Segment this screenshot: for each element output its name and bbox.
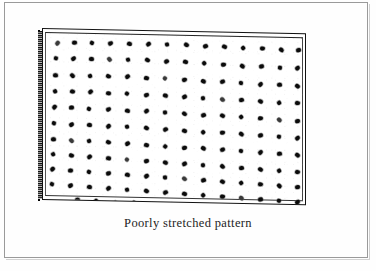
pattern-dot (239, 98, 244, 103)
pattern-dot (238, 180, 243, 185)
pattern-dot (294, 65, 300, 71)
pattern-dot (162, 76, 168, 81)
pattern-dot (295, 119, 301, 124)
pattern-dot (260, 46, 265, 50)
pattern-dot (201, 96, 205, 100)
pattern-dot (182, 77, 188, 82)
pattern-dot (144, 57, 150, 63)
pattern-dot (150, 201, 156, 205)
pattern-dot (239, 149, 244, 154)
pattern-dot (105, 139, 111, 145)
pattern-dot (87, 139, 92, 143)
pattern-dot (277, 134, 282, 139)
pattern-dot (163, 110, 167, 114)
pattern-dot (124, 157, 130, 162)
pattern-dot (162, 144, 168, 149)
pattern-dot (294, 83, 300, 89)
pattern-dot (125, 108, 130, 113)
pattern-dot (278, 65, 283, 70)
pattern-dot (294, 152, 300, 158)
pattern-dot (181, 94, 187, 100)
pattern-dot (188, 203, 194, 205)
pattern-dot (106, 156, 111, 160)
pattern-dot (295, 185, 301, 190)
pattern-dot (276, 117, 282, 123)
pattern-dot (294, 135, 300, 141)
pattern-dot (87, 89, 93, 95)
pattern-dot (239, 63, 245, 69)
pattern-dot (53, 56, 58, 61)
pattern-dot (67, 183, 73, 189)
pattern-dot (127, 41, 132, 46)
pattern-dot (69, 105, 74, 109)
pattern-dot (144, 143, 149, 148)
pattern-dot (49, 166, 55, 172)
dot-pattern-figure (38, 28, 308, 203)
pattern-dot (75, 197, 80, 201)
dot-grid (43, 29, 305, 34)
pattern-dot (70, 89, 76, 94)
pattern-dot (201, 113, 207, 118)
pattern-dot (105, 185, 111, 191)
pattern-dot (219, 96, 225, 102)
pattern-dot (221, 63, 226, 67)
pattern-dot (257, 149, 263, 155)
pattern-dot (183, 59, 189, 64)
pattern-dot (219, 163, 225, 169)
pattern-dot (107, 41, 113, 47)
pattern-dot (131, 200, 137, 205)
pattern-dot (88, 74, 93, 78)
pattern-dot (51, 137, 56, 141)
pattern-dot (245, 204, 251, 205)
pattern-dot (86, 154, 92, 160)
pattern-dot (181, 176, 187, 182)
pattern-dot (219, 113, 225, 118)
pattern-dot (163, 175, 167, 179)
pattern-dot (182, 146, 188, 150)
pattern-dot (239, 81, 244, 85)
pattern-dot (162, 127, 168, 132)
pattern-dot (144, 159, 150, 164)
pattern-dot (257, 98, 263, 104)
pattern-dot (126, 57, 131, 61)
pattern-dot (163, 59, 169, 64)
pattern-dot (86, 106, 91, 111)
pattern-dot (181, 111, 187, 117)
pattern-dot (93, 198, 99, 204)
pattern-dot (124, 141, 130, 147)
pattern-dot (258, 116, 263, 120)
pattern-dot (89, 40, 94, 45)
pattern-dot (257, 166, 263, 172)
pattern-dot (258, 64, 264, 69)
pattern-dot (238, 195, 244, 201)
pattern-dot (240, 45, 245, 50)
pattern-dot (143, 108, 149, 114)
pattern-dot (220, 195, 225, 199)
pattern-dot (258, 197, 264, 202)
pattern-dot (72, 40, 77, 45)
pattern-dot (182, 128, 188, 133)
pattern-dot (201, 178, 206, 183)
pattern-dot (170, 202, 176, 205)
pattern-dot (283, 205, 289, 206)
pattern-dot (258, 182, 263, 186)
pattern-dot (276, 198, 281, 203)
pattern-dot (200, 145, 206, 151)
scan-grain-texture (43, 29, 305, 204)
pattern-dot (145, 41, 151, 47)
pattern-dot (222, 44, 228, 49)
pattern-dot (105, 73, 111, 79)
pattern-dot (53, 73, 58, 77)
pattern-dot (182, 191, 188, 196)
pattern-dot (143, 173, 149, 179)
pattern-dot (203, 44, 209, 49)
figure-caption: Poorly stretched pattern (0, 216, 376, 231)
pattern-dot (296, 48, 302, 53)
pattern-dot (200, 78, 206, 84)
pattern-dot (258, 133, 264, 138)
pattern-dot (49, 181, 54, 186)
pattern-dot (276, 183, 282, 189)
pattern-dot (183, 42, 189, 48)
pattern-dot (51, 104, 57, 110)
pattern-dot (124, 74, 130, 80)
